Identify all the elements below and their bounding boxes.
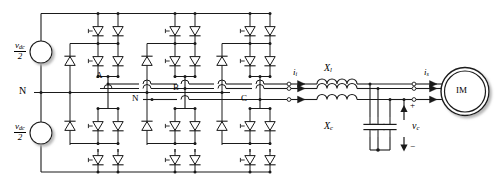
dc-source-upper bbox=[30, 41, 52, 63]
cap-voltage-label: vc bbox=[412, 121, 419, 132]
leg-a-clamp-diode-upper bbox=[64, 50, 75, 72]
cap-voltage-polarity bbox=[400, 98, 407, 152]
node-label-phase-c: C bbox=[241, 94, 247, 103]
node-label-neutral-left: N bbox=[19, 86, 26, 96]
filter-capacitor-label: Xc bbox=[324, 121, 333, 132]
dc-source-upper-label: vdc 2 bbox=[14, 41, 26, 61]
leg-a-switch-s1 bbox=[88, 20, 123, 42]
induction-machine-label: IM bbox=[456, 86, 467, 95]
leg-a-clamp-diode-lower bbox=[64, 115, 75, 137]
leg-b-switch-s4 bbox=[165, 149, 200, 171]
leg-a-switch-s2 bbox=[88, 50, 123, 72]
inverter-current-arrows bbox=[298, 81, 306, 103]
dc-source-lower-label: vdc 2 bbox=[14, 122, 26, 142]
node-label-phase-b: B bbox=[173, 83, 179, 92]
leg-b-switch-s2 bbox=[165, 50, 200, 72]
stator-current-label: is bbox=[424, 68, 429, 77]
stator-current-arrows bbox=[430, 81, 438, 103]
filter-capacitors bbox=[363, 83, 396, 152]
schematic-canvas: vdc 2 vdc 2 N A N B C ii Xl Xc vc + − is bbox=[0, 0, 495, 185]
node-label-phase-a: A bbox=[96, 71, 103, 80]
leg-a-switch-s3 bbox=[88, 115, 123, 137]
leg-b-switch-s1 bbox=[165, 20, 200, 42]
leg-c-switch-s3 bbox=[240, 115, 275, 137]
inverter-current-label: ii bbox=[293, 68, 297, 77]
leg-b-switch-s3 bbox=[165, 115, 200, 137]
dc-source-lower bbox=[30, 122, 52, 144]
leg-a-switch-s4 bbox=[88, 149, 123, 171]
leg-c-switch-s2 bbox=[240, 50, 275, 72]
polarity-minus-label: − bbox=[410, 142, 415, 151]
leg-c-switch-s1 bbox=[240, 20, 275, 42]
circuit-schematic bbox=[0, 0, 495, 185]
filter-inductor-label: Xl bbox=[324, 63, 332, 74]
leg-c-clamp-diode-lower bbox=[216, 115, 227, 137]
leg-b-clamp-diode-lower bbox=[141, 115, 152, 137]
node-label-neutral-mid: N bbox=[132, 94, 139, 103]
phase-output-lines bbox=[100, 80, 287, 101]
leg-c-clamp-diode-upper bbox=[216, 50, 227, 72]
leg-b-clamp-diode-upper bbox=[141, 50, 152, 72]
polarity-plus-label: + bbox=[410, 101, 415, 110]
leg-c-switch-s4 bbox=[240, 149, 275, 171]
